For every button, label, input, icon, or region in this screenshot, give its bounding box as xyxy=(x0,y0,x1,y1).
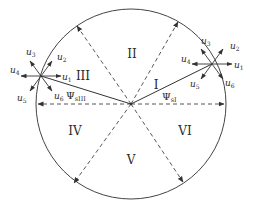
diagram-svg: I II III IV V VI u1 u2 u3 u4 u5 u6 ΨsIII… xyxy=(0,0,257,211)
psi-sIII-label: ΨsIII xyxy=(66,90,86,103)
right-star-labels: u1 u2 u3 u4 u5 u6 ΨsI xyxy=(162,36,244,104)
right-u3-label: u3 xyxy=(201,36,211,47)
left-u3-label: u3 xyxy=(26,47,36,58)
right-u6-label: u6 xyxy=(225,78,235,89)
left-u1-label: u1 xyxy=(62,72,72,83)
psi-sI-label: ΨsI xyxy=(162,91,177,104)
right-u2-label: u2 xyxy=(230,41,240,52)
sector-label-IV: IV xyxy=(68,124,82,138)
left-u6-label: u6 xyxy=(54,91,64,102)
boundary-240deg xyxy=(74,104,131,183)
sector-label-VI: VI xyxy=(177,124,192,138)
left-star-labels: u1 u2 u3 u4 u5 u6 ΨsIII xyxy=(10,47,86,104)
right-u4-label: u4 xyxy=(181,54,191,65)
sector-label-V: V xyxy=(126,153,136,167)
sector-label-III: III xyxy=(76,69,90,83)
right-u1-label: u1 xyxy=(234,60,244,71)
sector-diagram: I II III IV V VI u1 u2 u3 u4 u5 u6 ΨsIII… xyxy=(0,0,257,211)
sector-label-I: I xyxy=(154,78,159,92)
left-vector-star xyxy=(21,61,61,91)
left-u5-label: u5 xyxy=(17,93,27,104)
right-u5-label: u5 xyxy=(190,79,200,90)
origin-point xyxy=(130,103,132,105)
boundary-300deg xyxy=(131,104,183,182)
left-u2-label: u2 xyxy=(57,52,67,63)
boundary-120deg xyxy=(77,26,131,104)
sector-label-II: II xyxy=(127,47,137,61)
left-u4-label: u4 xyxy=(10,65,20,76)
